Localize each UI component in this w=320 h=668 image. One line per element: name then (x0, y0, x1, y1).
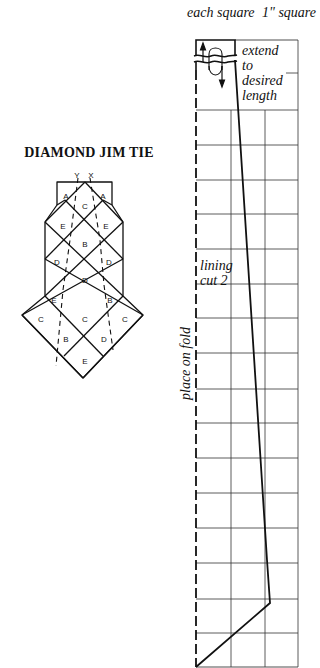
lining-note-line1: lining (200, 258, 233, 273)
pattern-outline (196, 60, 270, 667)
extend-note-line1: extend (242, 43, 280, 58)
tie-piece-label: E (60, 222, 65, 231)
scale-note-left: each square (187, 5, 255, 20)
x-line-label: X (88, 171, 94, 180)
tie-piece-label: A (63, 192, 69, 201)
tie-piece-label: D (54, 258, 60, 267)
tie-piece-label: D (82, 276, 88, 285)
tie-piece-label: E (51, 296, 56, 305)
extend-note-line3: desired (242, 73, 284, 88)
extend-box (194, 40, 237, 75)
tie-piece-label: D (106, 258, 112, 267)
fold-note: place on fold (178, 326, 193, 401)
tie-piece-label: C (82, 202, 88, 211)
down-arrow-icon (220, 66, 225, 87)
tie-piece-label: A (100, 192, 106, 201)
tie-piece-label: C (82, 315, 88, 324)
extend-note-line4: length (242, 88, 277, 103)
tie-piece-label: E (82, 357, 87, 366)
pattern-diagram: Y X AACEEBDDDEBCCCBDE each square 1" squ… (0, 0, 320, 668)
tie-piece-label: C (122, 315, 128, 324)
tie-piece-label: C (38, 315, 44, 324)
pattern-grid (196, 40, 298, 667)
tie-piece-label: B (82, 240, 87, 249)
lining-note-line2: cut 2 (200, 273, 228, 288)
tie-piece-label: B (63, 335, 68, 344)
extend-note-line2: to (242, 58, 253, 73)
up-arrow-icon (201, 43, 206, 62)
tie-piece-label: E (103, 222, 108, 231)
tie-piece-label: B (107, 296, 112, 305)
scale-note-right: 1" square (262, 5, 316, 20)
tie-piece-label: D (101, 335, 107, 344)
y-line-label: Y (74, 171, 80, 180)
